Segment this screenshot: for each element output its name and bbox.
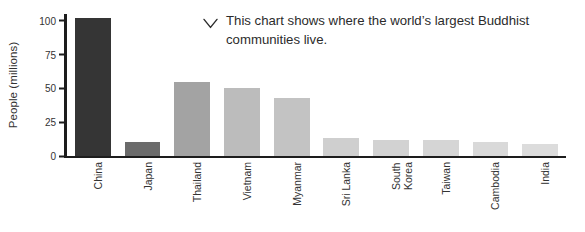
bar[interactable] [323, 138, 359, 156]
x-axis-tick-label: China [93, 162, 105, 189]
y-axis-tick: 0 [50, 151, 64, 162]
bar[interactable] [174, 82, 210, 156]
x-label-slot: South Korea [366, 160, 416, 230]
y-axis-tick-label: 100 [39, 15, 56, 26]
x-label-slot: China [68, 160, 118, 230]
x-label-slot: Thailand [167, 160, 217, 230]
x-axis-tick-label: Sri Lanka [341, 162, 353, 206]
x-label-slot: Sri Lanka [317, 160, 367, 230]
bar[interactable] [125, 142, 161, 156]
y-axis-tick-label: 75 [45, 49, 56, 60]
y-axis-spine [64, 14, 67, 158]
y-axis-tick: 50 [45, 83, 64, 94]
bar[interactable] [473, 142, 509, 156]
chart-annotation: This chart shows where the world’s large… [203, 12, 573, 49]
y-axis-title-label: People (millions) [7, 42, 19, 129]
y-axis-tick-label: 0 [50, 151, 56, 162]
x-axis-tick-label: Vietnam [242, 162, 254, 200]
y-axis-tick-label: 25 [45, 117, 56, 128]
y-axis-title: People (millions) [0, 0, 26, 170]
x-axis-tick-label: India [540, 162, 552, 185]
x-axis-tick-label: Japan [143, 162, 155, 191]
x-axis-tick-label: Myanmar [292, 162, 304, 206]
x-label-slot: Cambodia [466, 160, 516, 230]
y-axis-tick-label: 50 [45, 83, 56, 94]
x-axis-tick-label: Thailand [192, 162, 204, 202]
x-axis-tick-label: Cambodia [490, 162, 502, 210]
bar-chart-figure: People (millions) 0255075100 ChinaJapanT… [0, 0, 585, 232]
annotation-text: This chart shows where the world’s large… [226, 12, 556, 49]
x-label-slot: India [515, 160, 565, 230]
y-axis-tick: 100 [39, 15, 64, 26]
bar[interactable] [274, 98, 310, 156]
x-label-slot: Japan [118, 160, 168, 230]
bar[interactable] [224, 88, 260, 156]
y-axis-tick: 75 [45, 49, 64, 60]
chevron-down-icon [203, 15, 218, 33]
x-label-slot: Taiwan [416, 160, 466, 230]
x-label-slot: Myanmar [267, 160, 317, 230]
bar[interactable] [423, 140, 459, 156]
x-axis-labels: ChinaJapanThailandVietnamMyanmarSri Lank… [68, 160, 565, 230]
bar[interactable] [522, 144, 558, 156]
bar[interactable] [75, 18, 111, 156]
bar[interactable] [373, 140, 409, 156]
bar-slot [68, 14, 118, 156]
bar-slot [118, 14, 168, 156]
x-label-slot: Vietnam [217, 160, 267, 230]
y-axis-tick: 25 [45, 117, 64, 128]
x-axis-tick-label: South Korea [391, 162, 414, 190]
x-axis-tick-label: Taiwan [441, 162, 453, 195]
